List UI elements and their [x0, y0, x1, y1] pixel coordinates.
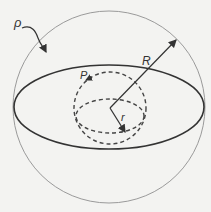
- point-label: P: [80, 69, 88, 81]
- diagram-canvas: ρ R P r: [0, 0, 211, 212]
- density-pointer-arrow: [22, 27, 46, 52]
- inner-radius-label: r: [121, 111, 126, 123]
- inner-dashed-equator: [76, 99, 144, 133]
- sphere-diagram: ρ R P r: [0, 0, 211, 212]
- outer-radius-label: R: [142, 54, 151, 68]
- equator-ellipse: [14, 65, 204, 149]
- outer-sphere: [13, 11, 205, 203]
- density-label: ρ: [13, 15, 22, 30]
